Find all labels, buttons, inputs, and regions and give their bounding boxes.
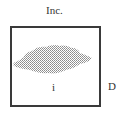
side-label: D xyxy=(108,81,116,92)
region-shape xyxy=(13,45,92,73)
stippled-region xyxy=(0,0,125,114)
inner-label: i xyxy=(52,82,55,93)
